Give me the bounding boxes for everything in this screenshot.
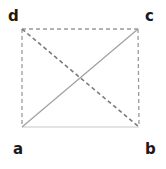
vertex-label-c: c: [145, 9, 154, 24]
vertex-label-d: d: [8, 9, 19, 24]
rectangle-diagram: d c a b: [0, 0, 166, 169]
vertex-label-b: b: [145, 142, 156, 157]
diagram-canvas: [0, 0, 166, 169]
edge-c-b: [138, 29, 139, 127]
vertex-label-a: a: [13, 142, 23, 157]
